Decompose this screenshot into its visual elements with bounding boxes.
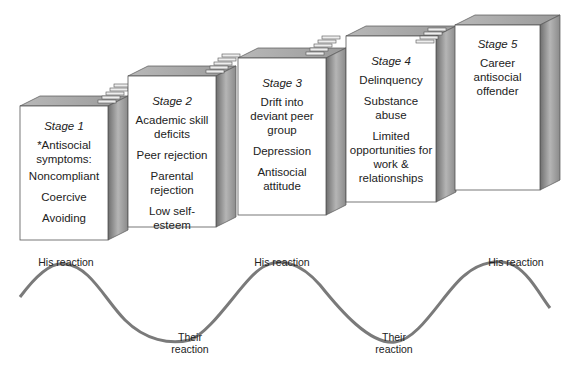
stage-1-item: Noncompliant: [20, 169, 108, 183]
stage-1-item: Avoiding: [20, 211, 108, 225]
wave-label-his-reaction: His reaction: [36, 256, 96, 268]
stage-5-text: Stage 5 Career antisocial offender: [455, 37, 540, 105]
stage-3-title: Stage 3: [238, 76, 326, 90]
stage-4-title: Stage 4: [346, 54, 436, 68]
stage-2-item: Academic skill deficits: [128, 113, 216, 141]
stage-3-item: Drift into deviant peer group: [238, 95, 326, 137]
stage-1-item: *Antisocial symptoms:: [20, 138, 108, 166]
stage-2-title: Stage 2: [128, 94, 216, 108]
stage-4-item: Limited opportunities for work & relatio…: [346, 129, 436, 185]
stage-3-item: Antisocial attitude: [238, 165, 326, 193]
wave-label-his-reaction: His reaction: [252, 256, 312, 268]
stage-5-item: Career antisocial offender: [455, 56, 540, 98]
stage-4-item: Delinquency: [346, 73, 436, 87]
stage-1-item: Coercive: [20, 190, 108, 204]
stage-2-item: Low self-esteem: [128, 204, 216, 232]
wave-label-their-reaction: Their reaction: [160, 331, 220, 355]
stage-3-text: Stage 3 Drift into deviant peer group De…: [238, 76, 326, 200]
stage-4-item: Substance abuse: [346, 94, 436, 122]
stage-4-text: Stage 4 Delinquency Substance abuse Limi…: [346, 54, 436, 192]
wave-label-their-reaction: Their reaction: [364, 331, 424, 355]
stage-1-title: Stage 1: [20, 119, 108, 133]
stage-2-item: Peer rejection: [128, 148, 216, 162]
stage-2-text: Stage 2 Academic skill deficits Peer rej…: [128, 94, 216, 239]
reaction-wave: [20, 262, 550, 342]
stage-2-item: Parental rejection: [128, 169, 216, 197]
stage-3-item: Depression: [238, 144, 326, 158]
stage-1-text: Stage 1 *Antisocial symptoms: Noncomplia…: [20, 119, 108, 232]
stage-5-title: Stage 5: [455, 37, 540, 51]
wave-label-his-reaction: His reaction: [486, 256, 546, 268]
